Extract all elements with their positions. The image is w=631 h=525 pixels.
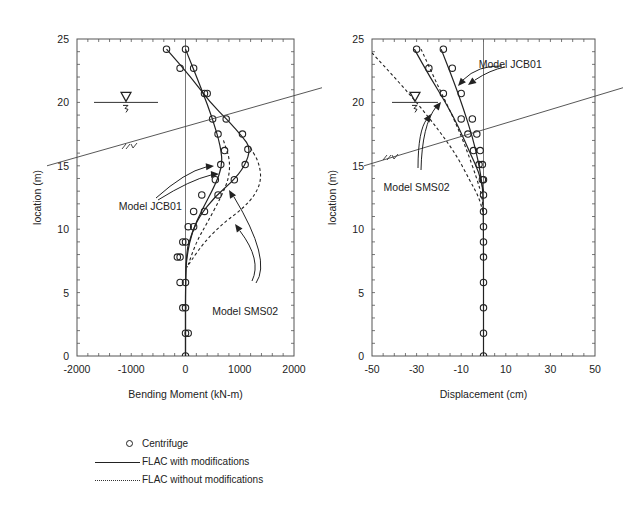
arrow-curve [158,175,211,200]
x-tick-label: 1000 [228,363,252,375]
arrow-curve [240,231,255,281]
annotation-model-sms02: Model SMS02 [212,305,278,317]
centrifuge-marker [458,116,464,122]
legend-label: Centrifuge [142,438,188,449]
annotation-arrows [156,163,261,283]
x-tick-label: -30 [409,363,424,375]
legend-item-flac-without-mod: FLAC without modifications [92,474,263,485]
centrifuge-marker [413,46,419,52]
y-tick-label: 25 [352,33,364,45]
y-tick-label: 5 [63,287,69,299]
arrow-curve [418,119,427,168]
centrifuge-marker [199,192,205,198]
solid-line-icon [92,457,140,467]
legend-item-flac-with-mod: FLAC with modifications [92,456,249,467]
annotation-model-jcb01: Model JCB01 [479,58,542,70]
x-tick-label: 30 [545,363,557,375]
centrifuge-marker [477,147,483,153]
ground-surface-line [47,88,322,166]
y-axis-title: location (m) [31,170,43,225]
y-tick-label: 25 [57,33,69,45]
y-tick-label: 10 [57,223,69,235]
y-axis-title: location (m) [326,170,338,225]
x-axis-title: Bending Moment (kN-m) [128,388,242,400]
centrifuge-marker [469,116,475,122]
flac-without-mod-line [188,140,229,264]
arrowhead-icon [235,224,243,233]
x-tick-label: -10 [454,363,469,375]
annotation-arrows [418,66,505,170]
flac-with-mod-line [441,49,483,356]
centrifuge-marker [190,208,196,214]
arrowhead-icon [229,190,236,199]
water-table-icon [94,92,158,112]
water-table-icon [392,92,438,112]
arrow-curve [234,197,261,283]
dotted-line-icon [92,475,140,485]
arrowhead-icon [468,77,477,85]
ground-surface-line [364,88,623,166]
legend-label: FLAC with modifications [142,456,249,467]
y-tick-label: 0 [358,350,364,362]
centrifuge-marker [440,46,446,52]
y-tick-label: 15 [352,160,364,172]
x-tick-label: -50 [364,363,379,375]
x-tick-label: -1000 [118,363,145,375]
y-tick-label: 10 [352,223,364,235]
circle-marker-icon [92,439,140,449]
y-tick-label: 0 [63,350,69,362]
annotation-model-jcb01: Model JCB01 [119,200,182,212]
legend-label: FLAC without modifications [142,474,263,485]
x-tick-label: 2000 [282,363,306,375]
x-tick-label: 50 [589,363,601,375]
centrifuge-marker [245,146,251,152]
x-axis-title: Displacement (cm) [440,388,528,400]
x-tick-label: 10 [500,363,512,375]
x-tick-label: 0 [183,363,189,375]
y-tick-label: 20 [352,96,364,108]
centrifuge-marker [221,147,227,153]
y-tick-label: 5 [358,287,364,299]
displacement-plot: -50-30-101030500510152025Displacement (c… [326,33,623,400]
bending-moment-plot: -2000-10000100020000510152025Bending Mom… [31,33,322,400]
x-tick-label: -2000 [64,363,91,375]
annotation-model-sms02: Model SMS02 [384,181,450,193]
arrowhead-icon [206,163,214,170]
y-tick-label: 20 [57,96,69,108]
legend-item-centrifuge: Centrifuge [92,438,188,449]
